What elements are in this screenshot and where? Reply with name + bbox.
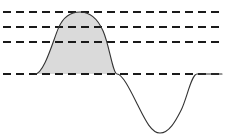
chart-canvas [0, 0, 230, 137]
sine-wave-figure [0, 0, 230, 137]
positive-half-cycle-fill [35, 12, 117, 74]
